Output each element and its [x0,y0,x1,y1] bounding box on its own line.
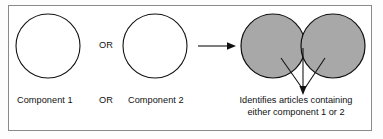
venn-left-circle [241,14,305,78]
operator-or-label: OR [99,95,113,106]
component-2-circle [123,14,187,78]
result-caption-line-1: Identifies articles containing [225,95,367,107]
label-component-2: Component 2 [128,95,184,106]
result-arrow [198,42,236,49]
figure-canvas [0,0,383,139]
venn-right-circle [301,14,365,78]
pointer-arrowhead [299,86,306,95]
operator-or-top: OR [99,40,113,51]
figure-root: OR Component 1 OR Component 2 Identifies… [0,0,383,139]
component-1-circle [16,14,80,78]
result-caption-line-2: either component 1 or 2 [225,107,367,119]
label-component-1: Component 1 [17,95,73,106]
result-caption: Identifies articles containing either co… [225,95,367,118]
